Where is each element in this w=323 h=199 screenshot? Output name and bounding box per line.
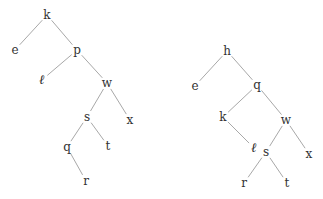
tree-node-x: x: [306, 147, 313, 161]
tree-edge: [232, 56, 253, 80]
tree-node-s: s: [84, 110, 90, 124]
left-tree-labels: kepℓwsxqtr: [11, 8, 133, 188]
tree-edge: [82, 55, 103, 78]
tree-node-p: p: [73, 43, 81, 57]
tree-node-k: k: [219, 110, 227, 124]
tree-node-h: h: [223, 44, 231, 58]
tree-node-k: k: [43, 8, 51, 22]
tree-edge: [91, 123, 104, 141]
tree-node-ell: ℓ: [39, 72, 45, 87]
tree-edge: [20, 20, 43, 45]
tree-edge: [290, 126, 305, 148]
tree-node-s: s: [263, 145, 269, 159]
tree-edge: [52, 20, 73, 44]
tree-edge: [270, 126, 283, 146]
tree-node-r: r: [83, 174, 89, 188]
tree-node-x: x: [127, 113, 134, 127]
tree-node-q: q: [63, 140, 71, 154]
tree-diagram-canvas: kepℓwsxqtrheqkwℓsxrt: [0, 0, 323, 199]
tree-node-r: r: [241, 176, 247, 190]
tree-edge: [91, 89, 104, 111]
tree-node-q: q: [253, 78, 261, 92]
tree-edge: [200, 56, 223, 81]
tree-node-t: t: [106, 139, 111, 153]
tree-edge: [270, 158, 283, 177]
tree-edge: [70, 153, 82, 175]
tree-edge: [47, 55, 71, 76]
tree-edge: [262, 90, 282, 114]
tree-node-w: w: [281, 113, 292, 127]
tree-edge: [248, 158, 262, 178]
tree-node-e: e: [191, 79, 198, 93]
tree-edge: [228, 122, 249, 143]
tree-edge: [71, 123, 83, 141]
tree-edge: [111, 89, 127, 114]
tree-node-ell: ℓ: [251, 140, 257, 155]
tree-edge: [228, 90, 252, 112]
labels-layer: kepℓwsxqtrheqkwℓsxrt: [11, 8, 312, 190]
tree-node-t: t: [285, 176, 290, 190]
tree-node-e: e: [11, 43, 18, 57]
right-tree-labels: heqkwℓsxrt: [191, 44, 312, 190]
tree-node-w: w: [102, 76, 113, 90]
